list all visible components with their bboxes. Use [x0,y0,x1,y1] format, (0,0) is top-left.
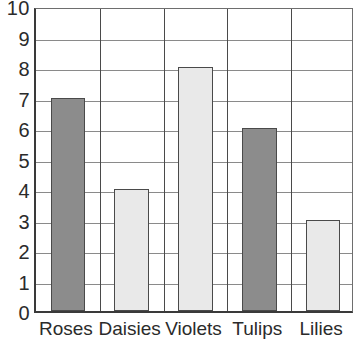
y-axis-tick-label: 0 [2,303,30,323]
x-axis-tick-label: Lilies [289,318,353,341]
bar-violets [178,67,212,311]
bar-tulips [242,128,276,311]
bar-lilies [306,220,340,312]
y-axis-tick-label: 6 [2,120,30,140]
bar-roses [51,98,85,312]
y-axis-tick-label: 8 [2,59,30,79]
y-axis: 012345678910 [0,0,30,357]
category-divider [291,9,292,311]
y-axis-tick-label: 9 [2,29,30,49]
x-axis-tick-label: Violets [162,318,226,341]
y-axis-tick-label: 2 [2,242,30,262]
y-axis-tick-label: 5 [2,151,30,171]
gridline [36,40,352,41]
x-axis-tick-label: Tulips [225,318,289,341]
x-axis: RosesDaisiesVioletsTulipsLilies [34,318,353,352]
category-divider [100,9,101,311]
y-axis-tick-label: 3 [2,212,30,232]
x-axis-tick-label: Daisies [98,318,162,341]
x-axis-tick-label: Roses [34,318,98,341]
y-axis-tick-label: 10 [2,0,30,18]
y-axis-tick-label: 7 [2,90,30,110]
y-axis-tick-label: 4 [2,181,30,201]
y-axis-tick-label: 1 [2,273,30,293]
category-divider [164,9,165,311]
bar-chart: 012345678910 RosesDaisiesVioletsTulipsLi… [0,0,358,357]
bar-daisies [114,189,148,311]
plot-area [34,8,353,313]
category-divider [227,9,228,311]
